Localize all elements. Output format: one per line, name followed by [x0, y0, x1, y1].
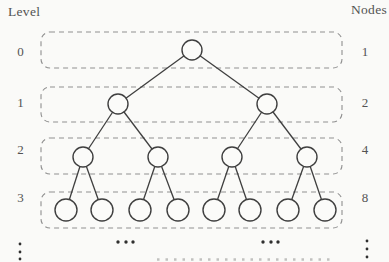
- node-count-label: 2: [362, 95, 369, 110]
- node-count-label: 1: [362, 44, 369, 59]
- tree-node: [148, 147, 168, 167]
- tree-node: [167, 199, 189, 221]
- level-label: 2: [17, 142, 24, 157]
- level-label: 3: [17, 190, 24, 205]
- vertical-ellipsis-left-dot: [19, 258, 22, 261]
- horizontal-ellipsis-right-dot: [261, 240, 264, 243]
- tree-node: [182, 40, 202, 60]
- vertical-ellipsis-right-dot: [366, 256, 369, 259]
- horizontal-ellipsis-left-dot: [131, 240, 134, 243]
- node-count-label: 8: [362, 190, 369, 205]
- nodes-column-header: Nodes: [351, 2, 387, 17]
- tree-node: [297, 147, 317, 167]
- tree-node: [203, 199, 225, 221]
- tree-node: [277, 199, 299, 221]
- level-1-box: [41, 87, 342, 122]
- horizontal-ellipsis-left-dot: [124, 240, 127, 243]
- vertical-ellipsis-right-dot: [366, 240, 369, 243]
- vertical-ellipsis-left-dot: [19, 251, 22, 254]
- tree-edge: [118, 50, 192, 104]
- horizontal-ellipsis-right-dot: [269, 240, 272, 243]
- horizontal-ellipsis-left-dot: [116, 240, 119, 243]
- tree-node: [222, 147, 242, 167]
- node-count-label: 4: [362, 142, 369, 157]
- tree-diagram-canvas: Level Nodes 01122438: [0, 0, 389, 262]
- tree-node: [73, 147, 93, 167]
- tree-node: [257, 94, 277, 114]
- horizontal-ellipsis-right-dot: [276, 240, 279, 243]
- level-label: 1: [17, 95, 24, 110]
- tree-node: [108, 94, 128, 114]
- tree-node: [239, 199, 261, 221]
- tree-node: [314, 199, 336, 221]
- figure-binary-tree-levels: Level Nodes 01122438: [0, 0, 389, 262]
- tree-node: [55, 199, 77, 221]
- level-column-header: Level: [8, 4, 40, 19]
- vertical-ellipsis-left-dot: [19, 243, 22, 246]
- vertical-ellipsis-right-dot: [366, 248, 369, 251]
- tree-node: [129, 199, 151, 221]
- level-label: 0: [17, 44, 24, 59]
- tree-edge: [192, 50, 267, 104]
- tree-node: [91, 199, 113, 221]
